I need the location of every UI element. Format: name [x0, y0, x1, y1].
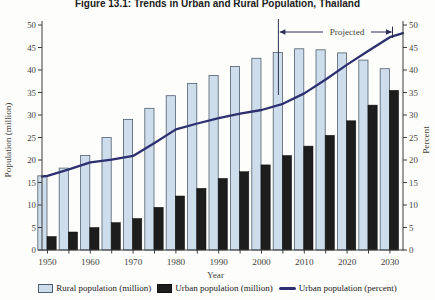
bar-rural-1965	[102, 138, 111, 251]
y-tick-label-left: 40	[27, 65, 36, 75]
legend-label-percent: Urban population (percent)	[299, 283, 397, 293]
y-axis-title-left: Population (million)	[3, 103, 13, 178]
bar-urban-2020	[347, 121, 356, 250]
bar-urban-2000	[261, 165, 270, 250]
bar-rural-1975	[145, 108, 154, 250]
bar-urban-1990	[218, 178, 227, 250]
legend-item-rural: Rural population (million)	[38, 283, 151, 293]
x-axis-title: Year	[207, 270, 224, 280]
legend-label-urban: Urban population (million)	[175, 283, 272, 293]
y-tick-label-right: 10	[409, 200, 418, 210]
y-tick-label-right: 40	[409, 65, 418, 75]
bar-urban-1950	[47, 237, 56, 251]
x-tick-label: 1950	[38, 257, 57, 267]
y-tick-label-right: 0	[409, 245, 414, 255]
y-axis-title-right: Percent	[421, 126, 431, 154]
y-tick-label-right: 30	[409, 110, 418, 120]
bar-rural-1985	[188, 84, 197, 251]
bar-urban-1970	[133, 219, 142, 251]
chart-legend: Rural population (million) Urban populat…	[0, 283, 435, 293]
urban-swatch-icon	[157, 284, 172, 293]
bar-rural-2025	[359, 60, 368, 250]
x-tick-label: 1980	[167, 257, 186, 267]
bar-urban-1980	[175, 196, 184, 250]
bar-rural-1960	[81, 156, 90, 251]
x-tick-label: 1990	[210, 257, 229, 267]
y-tick-label-right: 5	[409, 223, 414, 233]
y-tick-label-left: 10	[27, 200, 36, 210]
projected-label: Projected	[330, 27, 365, 37]
x-tick-label: 2020	[338, 257, 357, 267]
y-tick-label-right: 15	[409, 178, 418, 188]
bar-rural-2030	[380, 69, 389, 250]
bar-rural-2020	[337, 53, 346, 250]
arrowhead-left-icon	[279, 29, 285, 34]
bar-rural-1955	[59, 168, 68, 250]
bar-urban-2010	[304, 146, 313, 250]
x-tick-label: 2030	[381, 257, 400, 267]
y-tick-label-left: 0	[32, 245, 37, 255]
bar-rural-1980	[166, 96, 175, 250]
bar-rural-2010	[295, 49, 304, 250]
y-tick-label-left: 15	[27, 178, 36, 188]
bar-urban-1955	[68, 232, 77, 250]
bar-rural-2000	[252, 58, 261, 250]
legend-label-rural: Rural population (million)	[56, 283, 151, 293]
y-tick-label-left: 35	[27, 88, 36, 98]
y-tick-label-left: 30	[27, 110, 36, 120]
bar-urban-1960	[90, 228, 99, 251]
legend-item-percent: Urban population (percent)	[279, 283, 397, 293]
x-tick-label: 1960	[81, 257, 100, 267]
chart-canvas: 0055101015152020252530303535404045455050…	[0, 0, 435, 282]
bar-rural-1970	[123, 120, 132, 251]
y-tick-label-left: 20	[27, 155, 36, 165]
bar-urban-2005	[282, 156, 291, 251]
bar-urban-2030	[389, 90, 398, 250]
bar-urban-1975	[154, 207, 163, 250]
bar-urban-1995	[240, 172, 249, 250]
bar-urban-2025	[368, 105, 377, 250]
bar-urban-1965	[111, 223, 120, 250]
figure-13-1: Figure 13.1: Trends in Urban and Rural P…	[0, 0, 435, 300]
y-tick-label-left: 50	[27, 20, 36, 30]
legend-item-urban: Urban population (million)	[157, 283, 272, 293]
x-tick-label: 2000	[252, 257, 271, 267]
bar-rural-1990	[209, 75, 218, 250]
rural-swatch-icon	[38, 284, 53, 293]
y-tick-label-right: 45	[409, 43, 418, 53]
y-tick-label-right: 50	[409, 20, 418, 30]
bar-urban-2015	[325, 135, 334, 250]
y-tick-label-right: 25	[409, 133, 418, 143]
x-tick-label: 2010	[295, 257, 314, 267]
x-tick-label: 1970	[124, 257, 143, 267]
y-tick-label-left: 25	[27, 133, 36, 143]
bar-urban-1985	[197, 188, 206, 250]
y-tick-label-right: 20	[409, 155, 418, 165]
y-tick-label-right: 35	[409, 88, 418, 98]
y-tick-label-left: 5	[32, 223, 37, 233]
bar-rural-2005	[273, 53, 282, 251]
arrowhead-right-icon	[386, 29, 392, 34]
bar-rural-1995	[230, 66, 239, 250]
y-tick-label-left: 45	[27, 43, 36, 53]
percent-line-swatch-icon	[279, 287, 296, 290]
